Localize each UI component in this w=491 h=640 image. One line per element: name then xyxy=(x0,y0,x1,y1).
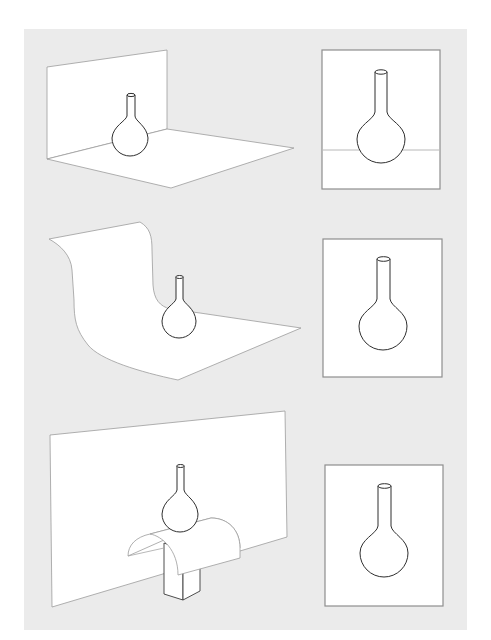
figure-page xyxy=(0,0,491,640)
result-frame-1 xyxy=(322,50,440,189)
figure-canvas xyxy=(0,0,491,640)
result-frame-2 xyxy=(323,239,442,377)
result-frame-3 xyxy=(325,465,443,606)
